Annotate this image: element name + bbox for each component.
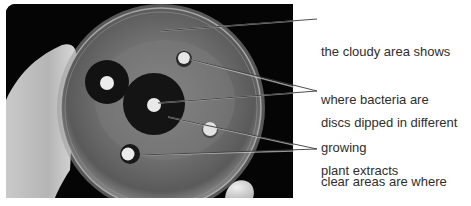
label-clear-areas: clear areas are where bacteria have been… (321, 142, 465, 206)
label-line: the cloudy area shows (321, 44, 450, 60)
label-line: clear areas are where (321, 174, 465, 190)
petri-dish-photo (6, 4, 293, 198)
label-line: discs dipped in different (321, 115, 457, 131)
